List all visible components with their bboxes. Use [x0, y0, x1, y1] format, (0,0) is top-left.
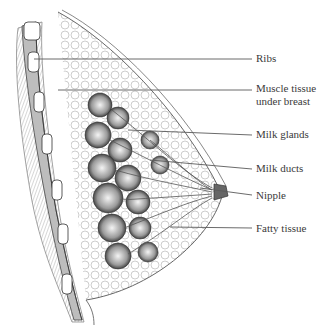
label-milk-ducts: Milk ducts [256, 162, 303, 175]
breast-anatomy-diagram: Ribs Muscle tissue under breast Milk gla… [0, 0, 330, 328]
label-nipple: Nipple [256, 189, 286, 202]
breast-outline [58, 10, 226, 325]
label-fatty-tissue: Fatty tissue [256, 222, 306, 235]
label-muscle-line1: Muscle tissue [256, 82, 330, 95]
nipple [214, 184, 228, 200]
label-muscle-tissue: Muscle tissue under breast [256, 82, 330, 108]
label-milk-glands: Milk glands [256, 128, 309, 141]
label-ribs: Ribs [256, 52, 276, 65]
label-muscle-line2: under breast [256, 95, 330, 108]
